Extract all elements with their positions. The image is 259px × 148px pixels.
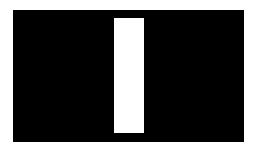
black-panel [13,10,244,142]
canvas [0,0,259,148]
white-vertical-bar [114,18,144,133]
